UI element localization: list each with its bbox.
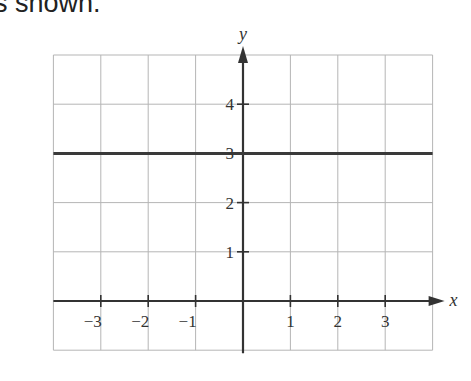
x-tick-label: 3: [381, 312, 390, 331]
x-tick-label: 1: [286, 312, 295, 331]
axes: [53, 46, 444, 353]
y-tick-label: 4: [226, 95, 235, 114]
y-tick-label: 3: [226, 144, 235, 163]
x-axis-arrow-icon: [429, 296, 445, 306]
coordinate-plane: −3−2−11231234xy: [0, 0, 471, 381]
y-tick-label: 2: [226, 194, 235, 213]
y-axis-label: y: [237, 24, 247, 44]
y-tick-label: 1: [226, 243, 235, 262]
x-tick-label: −2: [131, 312, 149, 331]
x-tick-label: −3: [84, 312, 102, 331]
x-tick-label: 2: [334, 312, 343, 331]
tick-labels: −3−2−11231234xy: [84, 24, 458, 331]
x-axis-label: x: [449, 290, 458, 310]
x-tick-label: −1: [179, 312, 197, 331]
